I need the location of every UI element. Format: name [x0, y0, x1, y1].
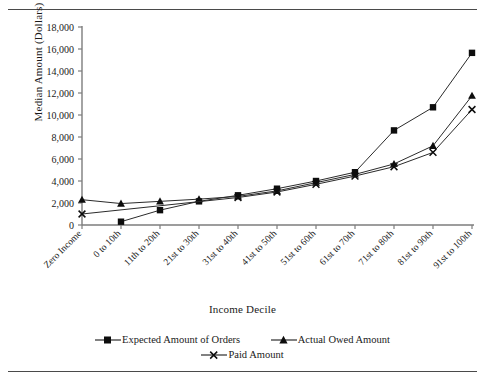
legend-row-1: Expected Amount of Orders Actual Owed Am… [0, 332, 485, 347]
x-tick-label: 0 to 10th [91, 228, 122, 259]
x-tick-label: 81st to 90th [396, 228, 435, 267]
data-point-square [391, 127, 397, 133]
y-tick-label: 0 [69, 220, 74, 231]
y-tick-label: 16,000 [47, 44, 75, 55]
series-line-1 [277, 183, 316, 191]
x-tick-label: 71st to 80th [357, 228, 396, 267]
legend-triangle-marker-icon [271, 335, 297, 345]
legend-item-expected-amount-of-orders[interactable]: Expected Amount of Orders [95, 332, 240, 347]
legend-row-2: Paid Amount [0, 347, 485, 362]
legend-label-actual-owed: Actual Owed Amount [298, 334, 390, 345]
x-tick-label: 41st to 50th [240, 228, 279, 267]
data-point-square [157, 207, 163, 213]
x-tick-label: 31st to 40th [201, 228, 240, 267]
series-line-0 [121, 210, 160, 222]
data-point-x [430, 149, 437, 156]
x-tick-label: 11th to 20th [122, 228, 161, 267]
series-line-1 [121, 201, 160, 203]
y-tick-label: 10,000 [47, 110, 75, 121]
y-tick-label: 6,000 [52, 154, 75, 165]
data-point-square [469, 50, 475, 56]
legend-label-paid: Paid Amount [228, 349, 283, 360]
series-line-2 [277, 184, 316, 192]
y-tick-label: 8,000 [52, 132, 75, 143]
series-line-2 [433, 110, 472, 153]
bottom-rule [8, 371, 477, 372]
series-line-0 [394, 107, 433, 130]
figure: Median Amount (Dollars) Income Decile 02… [0, 0, 485, 380]
y-tick-label: 4,000 [52, 176, 75, 187]
chart-plot-area: 02,0004,0006,0008,00010,00012,00014,0001… [0, 0, 485, 320]
x-tick-label: 21st to 30th [162, 228, 201, 267]
legend-item-actual-owed-amount[interactable]: Actual Owed Amount [271, 332, 390, 347]
x-tick-label: 61st to 70th [318, 228, 357, 267]
legend-label-expected: Expected Amount of Orders [122, 334, 240, 345]
data-point-triangle [78, 196, 86, 203]
y-tick-label: 12,000 [47, 88, 75, 99]
x-tick-label: Zero Income [42, 228, 84, 270]
data-point-triangle [468, 92, 476, 99]
legend-item-paid-amount[interactable]: Paid Amount [201, 347, 283, 362]
data-point-x [469, 106, 476, 113]
y-tick-label: 2,000 [52, 198, 75, 209]
series-line-0 [277, 181, 316, 189]
chart-legend: Expected Amount of Orders Actual Owed Am… [0, 332, 485, 362]
x-tick-label: 91st to 100th [431, 228, 473, 270]
series-line-1 [160, 199, 199, 201]
series-line-1 [82, 200, 121, 204]
legend-x-marker-icon [201, 350, 227, 360]
y-tick-label: 18,000 [47, 22, 75, 33]
series-line-0 [433, 53, 472, 107]
series-line-2 [355, 167, 394, 176]
y-tick-label: 14,000 [47, 66, 75, 77]
series-line-1 [433, 96, 472, 146]
series-line-1 [316, 174, 355, 182]
legend-square-marker-icon [95, 335, 121, 345]
data-point-square [430, 104, 436, 110]
data-point-square [118, 219, 124, 225]
x-tick-label: 51st to 60th [279, 228, 318, 267]
